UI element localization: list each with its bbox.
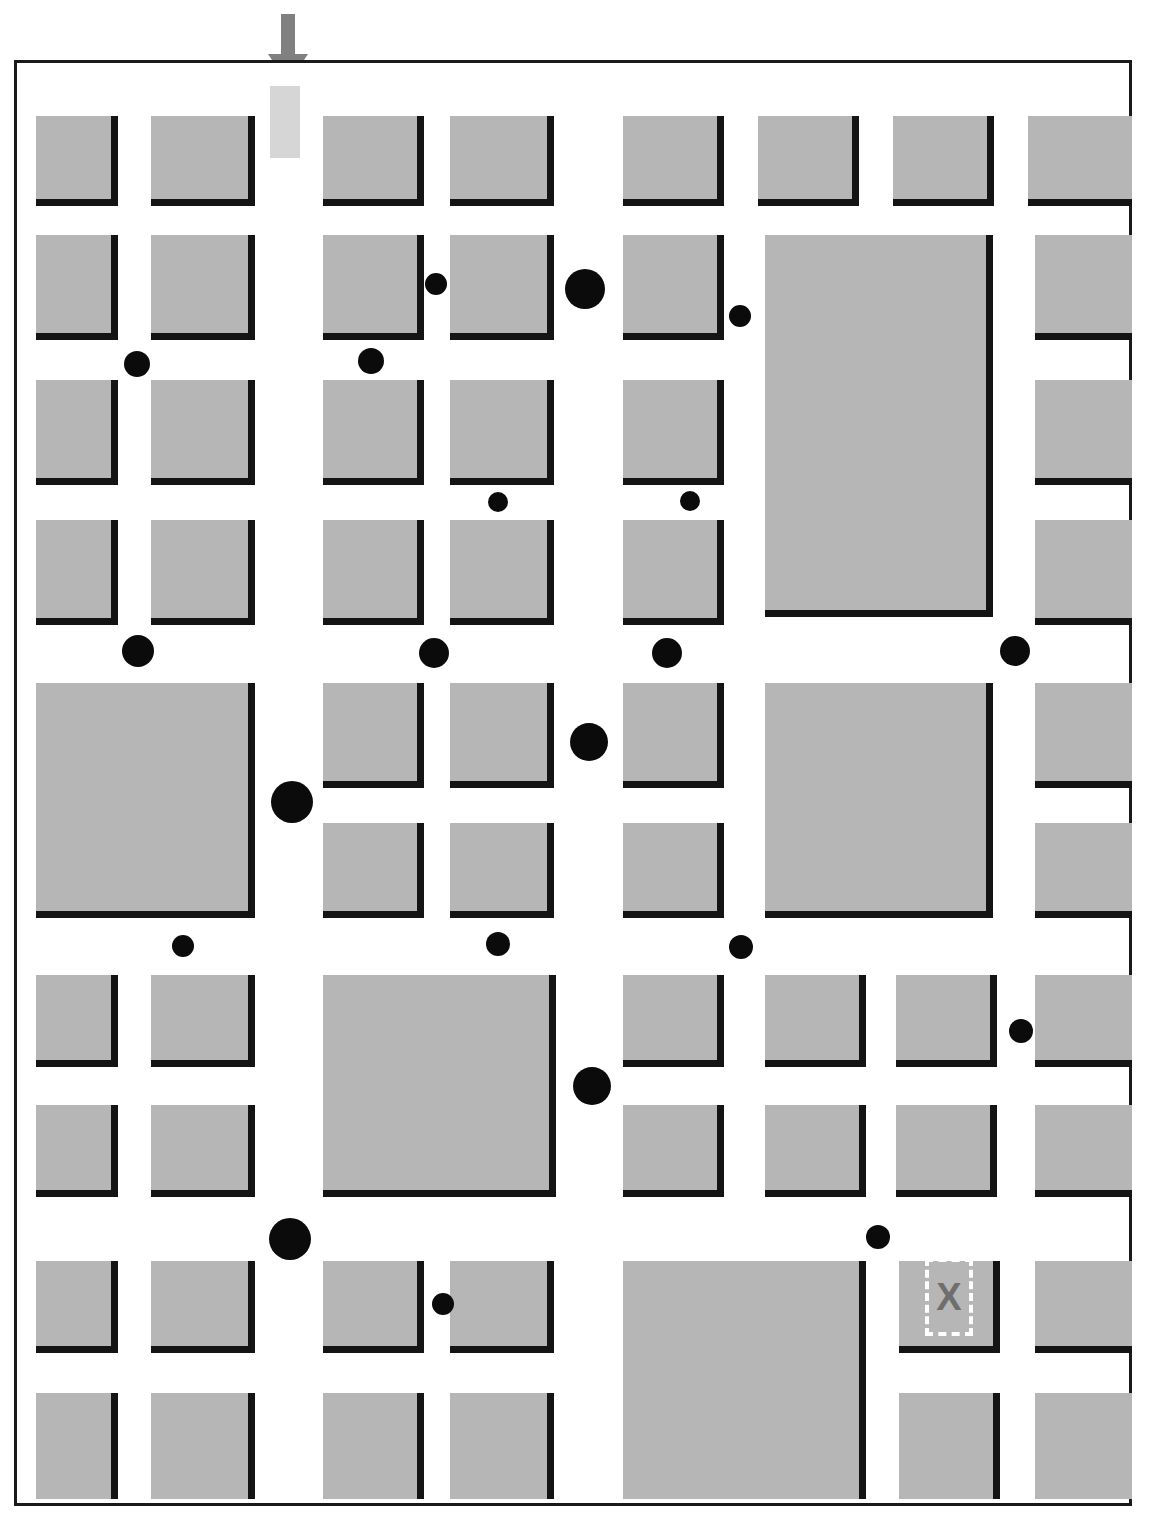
building-block [450, 823, 554, 918]
building-block [623, 235, 724, 340]
building-block [151, 1261, 255, 1353]
building-block [765, 235, 993, 617]
building-block [765, 683, 993, 918]
building-block [450, 380, 554, 485]
point-marker [124, 351, 150, 377]
building-block [623, 1105, 724, 1197]
building-block [323, 116, 424, 206]
point-marker [425, 273, 447, 295]
building-block [623, 1261, 866, 1499]
building-block [450, 1261, 554, 1353]
building-block [323, 235, 424, 340]
point-marker [432, 1293, 454, 1315]
building-block [323, 683, 424, 788]
building-block [893, 116, 994, 206]
building-block [623, 116, 724, 206]
building-block [899, 1393, 1000, 1499]
building-block [1035, 1261, 1132, 1353]
point-marker [866, 1225, 890, 1249]
building-block [623, 683, 724, 788]
building-block [1035, 1393, 1132, 1499]
building-block [758, 116, 859, 206]
building-block [1028, 116, 1132, 206]
destination-label: X [936, 1278, 961, 1316]
building-block [36, 1105, 118, 1197]
point-marker [172, 935, 194, 957]
point-marker [488, 492, 508, 512]
building-block [765, 975, 866, 1067]
building-block [896, 1105, 997, 1197]
building-block [36, 1393, 118, 1499]
building-block [151, 1393, 255, 1499]
point-marker [419, 638, 449, 668]
building-block [623, 520, 724, 625]
building-block [450, 116, 554, 206]
building-block [1035, 823, 1132, 918]
building-block [450, 1393, 554, 1499]
building-block [151, 1105, 255, 1197]
point-marker [358, 348, 384, 374]
building-block [1035, 235, 1132, 340]
building-block [151, 116, 255, 206]
entry-corridor-highlight [270, 86, 300, 158]
building-block [36, 520, 118, 625]
building-block [323, 380, 424, 485]
point-marker [271, 781, 313, 823]
building-block [151, 380, 255, 485]
building-block [323, 823, 424, 918]
point-marker [1000, 636, 1030, 666]
point-marker [565, 269, 605, 309]
point-marker [680, 491, 700, 511]
point-marker [486, 932, 510, 956]
building-block [623, 380, 724, 485]
point-marker [729, 935, 753, 959]
building-block [323, 1261, 424, 1353]
building-block [1035, 683, 1132, 788]
building-block [323, 520, 424, 625]
point-marker [573, 1067, 611, 1105]
building-block [36, 683, 255, 918]
building-block [36, 975, 118, 1067]
building-block [151, 520, 255, 625]
point-marker [122, 635, 154, 667]
building-block [1035, 1105, 1132, 1197]
building-block [765, 1105, 866, 1197]
building-block [623, 975, 724, 1067]
building-block [36, 235, 118, 340]
building-block [450, 520, 554, 625]
point-marker [729, 305, 751, 327]
building-block [36, 1261, 118, 1353]
building-block [151, 235, 255, 340]
building-block [1035, 975, 1132, 1067]
map-diagram: X [0, 0, 1154, 1523]
building-block [151, 975, 255, 1067]
building-block [623, 823, 724, 918]
building-block [36, 116, 118, 206]
destination-x-marker[interactable]: X [925, 1258, 973, 1336]
building-block [450, 235, 554, 340]
building-block [450, 683, 554, 788]
point-marker [269, 1218, 311, 1260]
point-marker [652, 638, 682, 668]
point-marker [1009, 1019, 1033, 1043]
building-block [36, 380, 118, 485]
building-block [896, 975, 997, 1067]
building-block [323, 1393, 424, 1499]
building-block [1035, 380, 1132, 485]
point-marker [570, 723, 608, 761]
building-block [323, 975, 556, 1197]
building-block [1035, 520, 1132, 625]
